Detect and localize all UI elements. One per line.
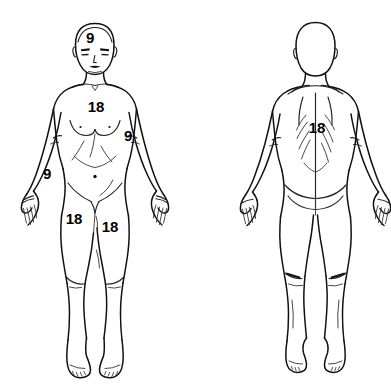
label-anterior-head-and-neck: 9 (86, 30, 94, 45)
label-anterior-right-arm: 9 (124, 128, 132, 143)
body-figures-illustration (0, 0, 391, 391)
label-anterior-trunk: 18 (88, 99, 104, 114)
label-anterior-right-leg: 18 (66, 211, 82, 226)
posterior-figure-drawing (240, 23, 390, 373)
label-anterior-left-leg: 18 (102, 219, 118, 234)
label-anterior-left-arm: 9 (43, 166, 51, 181)
body-figures-svg (0, 0, 391, 391)
label-posterior-trunk: 18 (309, 120, 325, 135)
rule-of-nines-chart: 9 18 9 9 18 18 18 (0, 0, 391, 391)
anterior-figure-drawing (21, 24, 168, 378)
